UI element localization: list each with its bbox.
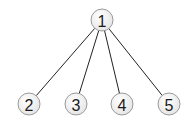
node-3: 3	[65, 93, 87, 115]
node-label: 1	[98, 13, 107, 30]
edge-1-5	[109, 29, 162, 96]
node-2: 2	[18, 93, 40, 115]
nodes: 12345	[18, 9, 180, 115]
node-label: 5	[165, 97, 174, 114]
node-5: 5	[158, 93, 180, 115]
node-4: 4	[111, 93, 133, 115]
tree-diagram: 12345	[0, 0, 194, 125]
edges	[36, 28, 162, 95]
edge-1-2	[36, 28, 95, 95]
node-1: 1	[91, 9, 113, 31]
edge-1-4	[105, 31, 120, 94]
node-label: 2	[25, 97, 34, 114]
edge-1-3	[79, 31, 99, 94]
node-label: 4	[118, 97, 127, 114]
node-label: 3	[72, 97, 81, 114]
